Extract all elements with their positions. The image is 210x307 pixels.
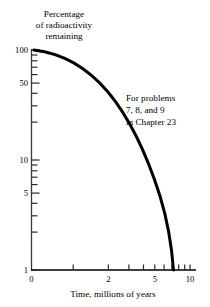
y-axis-title-line-3: remaining: [45, 31, 83, 41]
annotation-line-3: in Chapter 23: [126, 117, 176, 127]
annotation-line-1: For problems: [126, 93, 176, 103]
y-axis-minor-ticks: [32, 50, 40, 270]
y-tick-label-100: 100: [15, 45, 28, 55]
y-axis-title-line-1: Percentage: [44, 9, 84, 19]
radioactive-decay-figure: Percentage of radioactivity remaining: [0, 0, 210, 307]
x-tick-label-5: 5: [153, 274, 157, 284]
decay-chart-svg: Percentage of radioactivity remaining: [0, 0, 210, 307]
y-tick-label-50: 50: [19, 78, 28, 88]
decay-curve: [34, 50, 174, 270]
annotation-line-2: 7, 8, and 9: [126, 105, 165, 115]
y-tick-label-1: 1: [24, 265, 28, 275]
y-axis-title-line-2: of radioactivity: [36, 20, 93, 30]
x-tick-label-2: 2: [106, 274, 110, 284]
y-tick-label-5: 5: [24, 188, 28, 198]
x-axis-title: Time, millions of years: [70, 289, 156, 299]
y-tick-label-10: 10: [19, 155, 28, 165]
x-tick-label-10: 10: [186, 274, 195, 284]
x-tick-label-0: 0: [29, 274, 33, 284]
